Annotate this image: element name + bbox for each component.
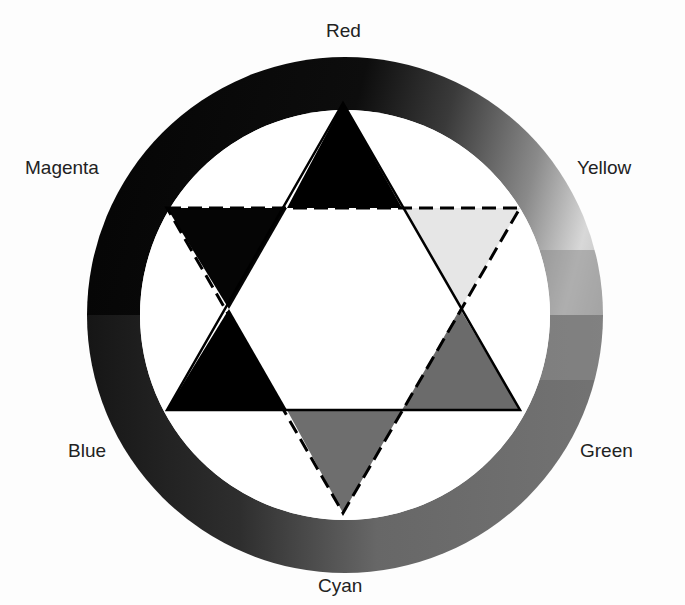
label-green: Green: [580, 441, 633, 460]
label-red: Red: [326, 21, 361, 40]
label-yellow: Yellow: [577, 158, 631, 177]
label-cyan: Cyan: [318, 576, 362, 595]
label-blue: Blue: [68, 441, 106, 460]
label-magenta: Magenta: [25, 158, 99, 177]
color-wheel-graphic: [0, 0, 685, 605]
color-wheel-diagram: Red Yellow Green Cyan Blue Magenta: [0, 0, 685, 605]
